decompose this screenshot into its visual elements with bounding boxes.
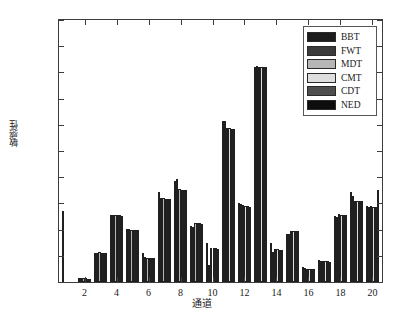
x-tick-mark (149, 20, 150, 25)
y-tick-mark (377, 282, 382, 283)
bar (62, 211, 64, 282)
bar (185, 190, 187, 282)
y-tick-mark (59, 203, 64, 204)
x-tick-label: 10 (198, 288, 228, 298)
bar (89, 279, 91, 282)
x-tick-mark (213, 20, 214, 25)
x-tick-mark (117, 20, 118, 25)
x-tick-mark (117, 277, 118, 282)
legend-item-bbt: BBT (307, 31, 373, 44)
x-tick-mark (85, 20, 86, 25)
y-tick-mark (377, 20, 382, 21)
x-tick-label: 14 (261, 288, 291, 298)
y-tick-mark (377, 151, 382, 152)
y-tick-mark (377, 72, 382, 73)
y-tick-mark (377, 203, 382, 204)
legend-label-ned: NED (341, 100, 361, 110)
bar (313, 269, 315, 282)
legend-swatch-cmt (307, 73, 336, 83)
bar (345, 215, 347, 282)
legend-label-mdt: MDT (341, 59, 362, 69)
bar (329, 262, 331, 282)
bar (249, 207, 251, 282)
bar (121, 216, 123, 282)
x-tick-label: 16 (293, 288, 323, 298)
x-tick-mark (149, 277, 150, 282)
legend-label-bbt: BBT (341, 32, 359, 42)
y-tick-mark (377, 125, 382, 126)
legend: BBT FWT MDT CMT CDT NED (303, 26, 377, 116)
y-tick-mark (59, 20, 64, 21)
y-tick-mark (59, 177, 64, 178)
bar (265, 67, 267, 282)
legend-swatch-bbt (307, 32, 336, 42)
x-tick-mark (372, 20, 373, 25)
bar (233, 129, 235, 282)
y-tick-mark (377, 99, 382, 100)
bar (169, 199, 171, 282)
x-tick-label: 8 (166, 288, 196, 298)
x-tick-label: 12 (229, 288, 259, 298)
bar (281, 250, 283, 282)
x-tick-mark (181, 277, 182, 282)
y-tick-mark (59, 256, 64, 257)
legend-swatch-ned (307, 100, 336, 110)
legend-label-fwt: FWT (341, 46, 361, 56)
legend-swatch-mdt (307, 59, 336, 69)
x-tick-label: 4 (102, 288, 132, 298)
legend-label-cmt: CMT (341, 73, 362, 83)
x-tick-mark (213, 277, 214, 282)
bar (217, 249, 219, 282)
x-tick-mark (276, 277, 277, 282)
legend-item-mdt: MDT (307, 58, 373, 71)
y-tick-mark (377, 230, 382, 231)
legend-swatch-fwt (307, 46, 336, 56)
y-tick-mark (59, 46, 64, 47)
x-tick-mark (308, 277, 309, 282)
legend-item-cdt: CDT (307, 85, 373, 98)
legend-swatch-cdt (307, 86, 336, 96)
x-tick-mark (372, 277, 373, 282)
x-tick-mark (244, 277, 245, 282)
y-tick-mark (59, 125, 64, 126)
y-tick-mark (59, 99, 64, 100)
x-tick-mark (340, 20, 341, 25)
bar (137, 230, 139, 282)
y-tick-mark (59, 151, 64, 152)
chart-figure: 敏感性 通道 00.0020.0040.0060.0080.0100.0120.… (0, 0, 403, 320)
x-axis-title: 通道 (0, 298, 403, 309)
x-tick-label: 2 (70, 288, 100, 298)
legend-item-ned: NED (307, 98, 373, 111)
bar (201, 224, 203, 282)
y-axis-title: 敏感性 (8, 120, 22, 147)
x-tick-label: 6 (134, 288, 164, 298)
y-tick-mark (59, 72, 64, 73)
y-tick-mark (377, 46, 382, 47)
x-tick-mark (340, 277, 341, 282)
legend-label-cdt: CDT (341, 86, 360, 96)
x-tick-mark (308, 20, 309, 25)
x-tick-mark (181, 20, 182, 25)
x-tick-mark (244, 20, 245, 25)
legend-item-cmt: CMT (307, 71, 373, 84)
y-tick-mark (377, 256, 382, 257)
bar (105, 253, 107, 282)
y-tick-mark (377, 177, 382, 178)
x-tick-label: 20 (357, 288, 387, 298)
x-tick-mark (85, 277, 86, 282)
bar (153, 258, 155, 282)
legend-item-fwt: FWT (307, 44, 373, 57)
x-tick-mark (276, 20, 277, 25)
bar (361, 201, 363, 282)
y-tick-mark (59, 282, 64, 283)
bar (297, 231, 299, 282)
y-tick-mark (59, 230, 64, 231)
x-tick-label: 18 (325, 288, 355, 298)
